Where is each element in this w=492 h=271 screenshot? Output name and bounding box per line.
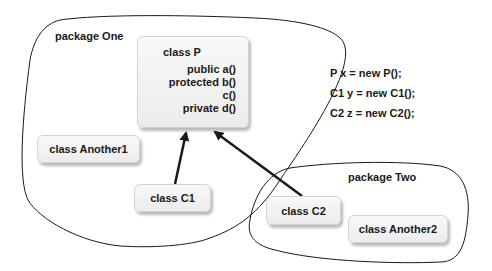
method-d: private d(): [169, 102, 236, 115]
class-p-methods: public a() protected b() c() private d(): [169, 63, 236, 115]
method-b: protected b(): [169, 76, 236, 89]
package-two-label: package Two: [348, 171, 416, 183]
package-one-label: package One: [55, 30, 123, 42]
code-line-3: C2 z = new C2();: [330, 103, 415, 123]
arrow-c1-to-p: [175, 133, 186, 184]
class-another1-box[interactable]: class Another1: [37, 135, 140, 163]
code-line-2: C1 y = new C1();: [330, 83, 415, 103]
class-c1-box[interactable]: class C1: [134, 184, 211, 212]
method-c: c(): [169, 89, 236, 102]
class-p-box[interactable]: class P public a() protected b() c() pri…: [137, 36, 249, 128]
class-another1-title: class Another1: [49, 143, 127, 155]
code-snippet: P x = new P(); C1 y = new C1(); C2 z = n…: [330, 63, 415, 123]
class-p-title: class P: [163, 46, 201, 58]
arrow-c2-to-p: [215, 132, 302, 196]
diagram-canvas: package One package Two class P public a…: [0, 0, 492, 271]
class-another2-title: class Another2: [359, 223, 437, 235]
class-c2-box[interactable]: class C2: [266, 196, 341, 225]
class-another2-box[interactable]: class Another2: [348, 215, 448, 243]
class-c1-title: class C1: [150, 192, 195, 204]
code-line-1: P x = new P();: [330, 63, 415, 83]
method-a: public a(): [169, 63, 236, 76]
class-c2-title: class C2: [281, 205, 326, 217]
